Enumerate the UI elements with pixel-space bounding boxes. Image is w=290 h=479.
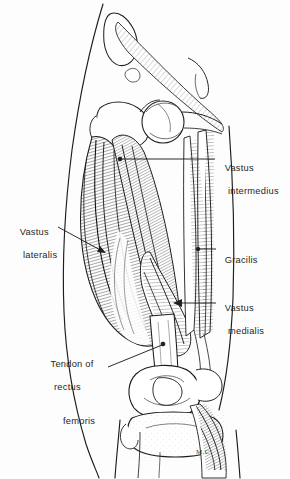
label-vastus-medialis-line2: medialis (219, 326, 264, 337)
label-vastus-medialis: Vastus medialis (219, 292, 264, 349)
label-vastus-lateralis-line1: Vastus (20, 227, 49, 237)
label-vastus-lateralis-line2: lateralis (14, 250, 57, 261)
label-vastus-lateralis: Vastus lateralis (14, 216, 57, 273)
label-tendon-line2: rectus (45, 382, 95, 393)
label-tendon-of-rectus-femoris: Tendon of rectus femoris (45, 348, 95, 439)
label-tendon-line1: Tendon of (51, 359, 94, 369)
label-tendon-line3: femoris (45, 416, 95, 427)
label-gracilis-line1: Gracilis (225, 255, 258, 265)
label-gracilis: Gracilis (219, 244, 258, 267)
label-vastus-intermedius: Vastus intermedius (219, 152, 279, 209)
label-vastus-intermedius-line1: Vastus (225, 163, 254, 173)
label-vastus-medialis-line1: Vastus (225, 303, 254, 313)
artist-signature: M.C (196, 448, 210, 456)
label-vastus-intermedius-line2: intermedius (219, 186, 279, 197)
pelvis-and-hip-bone (90, 10, 240, 150)
